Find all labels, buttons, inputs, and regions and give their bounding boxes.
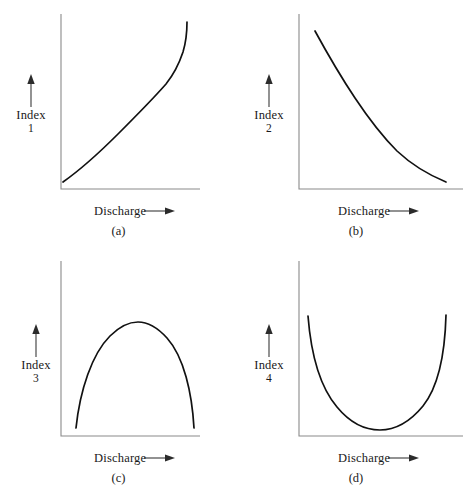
chart-c-x-axis-label: Discharge: [94, 451, 146, 466]
chart-a-y-axis-label: Index 1: [4, 108, 58, 135]
chart-c-y-arrow: [32, 324, 39, 357]
chart-panel-a: Index 1 Discharge (a): [0, 0, 237, 250]
chart-a-x-axis-label: Discharge: [94, 204, 146, 219]
chart-c-axes: [61, 261, 200, 436]
chart-c-y-label-text: Index: [21, 358, 50, 372]
figure-grid: Index 1 Discharge (a) Index 2 Discharge …: [0, 0, 475, 497]
chart-panel-c: Index 3 Discharge (c): [0, 250, 237, 497]
chart-c-y-axis-label: Index 3: [9, 358, 63, 385]
chart-d-x-arrow: [388, 454, 419, 461]
chart-d-y-axis-label: Index 4: [242, 358, 296, 385]
chart-b-x-arrow: [388, 207, 419, 214]
chart-d-index-number: 4: [242, 372, 296, 385]
chart-a-x-arrow: [144, 207, 175, 214]
chart-panel-d: Index 4 Discharge (d): [237, 250, 475, 497]
chart-b-axes: [299, 14, 463, 189]
chart-a-caption: (a): [0, 224, 237, 239]
chart-d-y-arrow: [265, 324, 272, 357]
chart-d-axes: [299, 261, 463, 436]
chart-c-curve: [76, 322, 194, 428]
chart-b-caption: (b): [237, 224, 475, 239]
chart-b-index-number: 2: [242, 122, 296, 135]
chart-d-curve: [308, 315, 446, 430]
chart-a-y-label-text: Index: [16, 108, 45, 122]
chart-a-axes: [61, 14, 200, 189]
chart-a-curve: [63, 22, 187, 182]
chart-c-index-number: 3: [9, 372, 63, 385]
chart-d-y-label-text: Index: [254, 358, 283, 372]
chart-b-y-arrow: [265, 74, 272, 107]
chart-a-y-arrow: [27, 74, 34, 107]
chart-b-y-label-text: Index: [254, 108, 283, 122]
chart-d-x-axis-label: Discharge: [338, 451, 390, 466]
chart-c-x-arrow: [144, 454, 175, 461]
chart-panel-b: Index 2 Discharge (b): [237, 0, 475, 250]
chart-d-caption: (d): [237, 471, 475, 486]
chart-c-caption: (c): [0, 471, 237, 486]
chart-b-x-axis-label: Discharge: [338, 204, 390, 219]
chart-b-y-axis-label: Index 2: [242, 108, 296, 135]
chart-b-curve: [315, 31, 446, 182]
chart-a-index-number: 1: [4, 122, 58, 135]
